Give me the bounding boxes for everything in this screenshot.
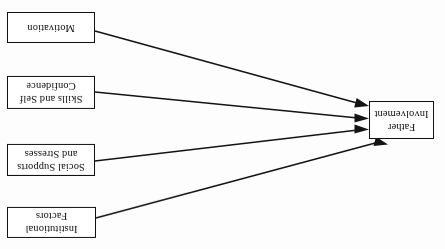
node-motivation[interactable]: Motivation [7, 12, 95, 43]
node-father-involvement-line-2: Involvement [374, 109, 428, 120]
node-motivation-label: Motivation [27, 21, 75, 34]
node-social-supports-and-stresses[interactable]: Social Supports and Stresses [7, 144, 95, 176]
edge-social-supports-and-stresses [95, 125, 369, 161]
node-institutional-factors-line-1: Institutional [25, 224, 77, 235]
node-skills-and-self-confidence[interactable]: Skills and Self Confidence [7, 76, 95, 109]
diagram-figure: Father Involvement Institutional Factors… [0, 0, 445, 249]
node-skills-and-self-confidence-line-1: Skills and Self [20, 94, 83, 105]
diagram-canvas: Father Involvement Institutional Factors… [0, 0, 445, 249]
node-social-supports-and-stresses-line-1: Social Supports [17, 162, 85, 173]
node-social-supports-and-stresses-line-2: and Stresses [25, 149, 78, 160]
edge-skills-and-self-confidence [95, 92, 369, 122]
node-skills-and-self-confidence-line-2: Confidence [26, 82, 75, 93]
node-skills-and-self-confidence-label: Skills and Self Confidence [20, 80, 83, 106]
edge-institutional-factors [96, 137, 388, 218]
node-father-involvement-line-1: Father [388, 122, 415, 133]
edge-motivation [95, 31, 369, 107]
node-institutional-factors[interactable]: Institutional Factors [7, 207, 96, 238]
node-institutional-factors-label: Institutional Factors [25, 210, 77, 236]
node-father-involvement[interactable]: Father Involvement [369, 101, 434, 139]
node-institutional-factors-line-2: Factors [36, 212, 68, 223]
node-social-supports-and-stresses-label: Social Supports and Stresses [17, 147, 85, 173]
node-father-involvement-label: Father Involvement [374, 107, 428, 133]
